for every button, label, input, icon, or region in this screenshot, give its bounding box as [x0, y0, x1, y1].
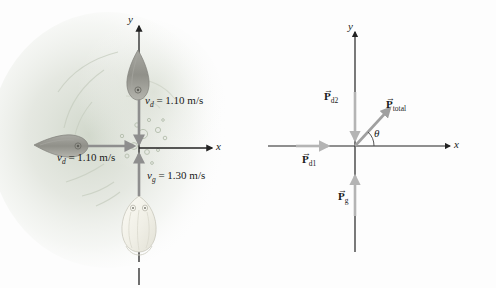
velocity-sub-dolphin-top: d	[150, 100, 154, 109]
vector-label-p-g: → P g	[338, 191, 348, 202]
vector-sub-p-d2: d2	[331, 96, 339, 105]
vector-arrow-accent-p-d2: →	[324, 86, 333, 95]
velocity-label-dolphin-top: vd = 1.10 m/s	[145, 95, 203, 106]
vector-sub-p-total: total	[393, 104, 406, 113]
velocity-eq-dolphin-top: =	[156, 94, 162, 106]
velocity-sub-goldfish: g	[152, 175, 156, 184]
vector-label-p-total: → P total	[386, 99, 406, 110]
right-panel-graphics	[250, 0, 496, 288]
left-x-axis-label: x	[216, 141, 221, 152]
left-y-axis-label: y	[128, 14, 133, 25]
vector-label-p-d1: → P d1	[302, 154, 316, 165]
vector-sub-p-g: g	[345, 196, 349, 205]
velocity-label-dolphin-left: vd = 1.10 m/s	[57, 152, 115, 163]
velocity-units-goldfish: m/s	[189, 169, 205, 181]
velocity-value-dolphin-top: 1.10	[165, 94, 184, 106]
velocity-units-dolphin-left: m/s	[99, 151, 115, 163]
velocity-value-goldfish: 1.30	[167, 169, 186, 181]
velocity-sub-dolphin-left: d	[62, 157, 66, 166]
left-panel-physical-scene: y x vd = 1.10 m/s vd = 1.10 m/s vg = 1.3…	[0, 0, 250, 288]
velocity-eq-goldfish: =	[158, 169, 164, 181]
figure-root: y x vd = 1.10 m/s vd = 1.10 m/s vg = 1.3…	[0, 0, 496, 288]
right-panel-momentum-diagram: y x → P d2 → P d1 → P g → P total	[250, 0, 496, 288]
water-background	[0, 12, 226, 268]
vector-p-total	[355, 108, 390, 146]
right-x-axis-label: x	[454, 139, 459, 150]
velocity-units-dolphin-top: m/s	[187, 94, 203, 106]
velocity-value-dolphin-left: 1.10	[77, 151, 96, 163]
vector-sub-p-d1: d1	[309, 159, 317, 168]
vector-arrow-accent-p-total: →	[386, 94, 395, 103]
left-panel-graphics	[0, 0, 250, 288]
vector-arrow-accent-p-d1: →	[302, 149, 311, 158]
vector-arrow-accent-p-g: →	[338, 186, 347, 195]
velocity-eq-dolphin-left: =	[68, 151, 74, 163]
right-y-axis-label: y	[348, 21, 353, 32]
theta-label: θ	[374, 128, 379, 139]
velocity-label-goldfish: vg = 1.30 m/s	[147, 170, 205, 181]
vector-label-p-d2: → P d2	[324, 91, 338, 102]
